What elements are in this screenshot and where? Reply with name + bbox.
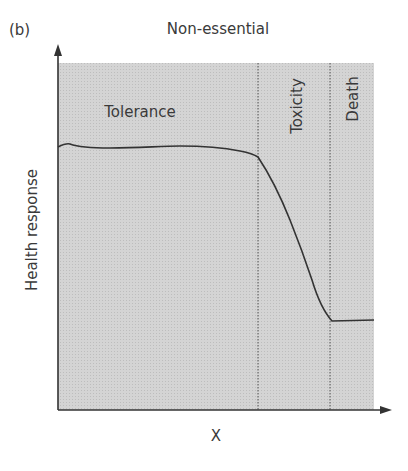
y-axis-arrow-icon [54, 44, 62, 56]
region-label-death: Death [344, 76, 362, 121]
region-label-tolerance: Tolerance [103, 103, 176, 121]
y-axis-label: Health response [23, 169, 41, 291]
region-label-toxicity: Toxicity [288, 78, 306, 135]
chart-title: Non-essential [167, 20, 269, 38]
panel-label: (b) [9, 21, 30, 39]
dose-response-diagram: (b) Non-essential Tolerance Toxicity Dea… [0, 0, 408, 471]
x-axis-label: X [211, 427, 221, 445]
x-axis-arrow-icon [380, 406, 392, 414]
